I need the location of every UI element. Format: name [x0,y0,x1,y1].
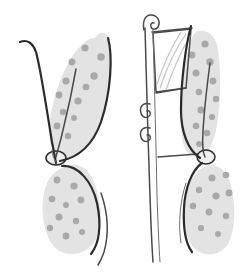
speck-dot [60,109,66,115]
speck-dot [198,107,205,114]
speck-dot [193,123,200,130]
left-lower-lobe-fill [43,164,101,254]
speck-dot [201,40,208,47]
specimen-illustration [0,0,242,274]
speck-dot [54,123,61,130]
speck-dot [83,84,90,91]
speck-dot [190,203,197,210]
speck-dot [56,92,63,99]
speck-dot [223,172,230,179]
speck-dot [56,214,63,221]
speck-dot [90,72,97,79]
speck-dot [204,130,210,136]
speck-dot [74,97,81,104]
speck-dot [196,141,202,147]
speck-dot [209,175,216,182]
speck-dot [70,182,77,189]
speck-dot [198,225,204,231]
speck-dot [65,133,71,139]
speck-dot [213,96,219,102]
speck-dot [79,229,85,235]
speck-dot [63,233,70,240]
speck-dot [193,70,200,77]
illustration-canvas [0,0,242,274]
speck-dot [215,231,221,237]
speck-dot [206,209,213,216]
speck-dot [212,192,219,199]
speck-dot [47,225,53,231]
speck-dot [196,187,202,193]
speck-dot [97,53,105,61]
speck-dot [196,89,203,96]
speck-dot [81,44,88,51]
speck-dot [63,78,70,85]
speck-dot [223,213,229,219]
speck-dot [210,78,217,85]
speck-dot [209,114,215,120]
speck-dot [49,196,56,203]
speck-dot [73,218,79,224]
speck-dot [78,197,85,204]
speck-dot [54,177,61,184]
speck-dot [63,202,69,208]
speck-dot [71,115,77,121]
speck-dot [226,190,233,197]
speck-dot [69,59,76,66]
